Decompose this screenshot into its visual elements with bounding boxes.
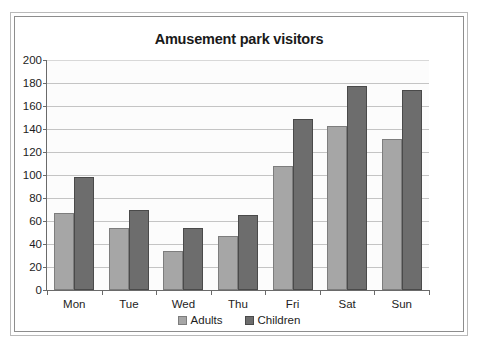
y-axis-tick-label: 20 [29, 261, 42, 273]
y-axis-tick-mark [43, 83, 47, 84]
bar-wed-children [183, 228, 203, 290]
x-axis-tick-mark [320, 290, 321, 295]
gridline [47, 129, 429, 130]
x-axis-tick-label: Tue [119, 298, 138, 310]
bar-wed-adults [163, 251, 183, 290]
y-axis-tick-mark [43, 175, 47, 176]
bar-thu-adults [218, 236, 238, 290]
gridline [47, 175, 429, 176]
x-axis-tick-label: Wed [172, 298, 195, 310]
chart-outer-frame: Amusement park visitors 0204060801001201… [10, 12, 468, 336]
legend-label: Children [258, 314, 301, 326]
x-axis-line [46, 290, 429, 291]
bar-mon-children [74, 177, 94, 290]
x-axis-tick-mark [374, 290, 375, 295]
y-axis-tick-mark [43, 198, 47, 199]
legend-swatch-icon [245, 316, 254, 325]
y-axis-tick-label: 40 [29, 238, 42, 250]
x-axis-tick-mark [211, 290, 212, 295]
bar-sun-adults [382, 139, 402, 290]
bar-tue-adults [109, 228, 129, 290]
x-axis-tick-mark [265, 290, 266, 295]
bar-sun-children [402, 90, 422, 290]
chart-title: Amusement park visitors [15, 31, 463, 47]
y-axis-tick-label: 120 [23, 146, 42, 158]
y-axis-tick-label: 160 [23, 100, 42, 112]
gridline [47, 106, 429, 107]
gridline [47, 83, 429, 84]
x-axis-tick-label: Sun [391, 298, 411, 310]
gridline [47, 152, 429, 153]
y-axis-tick-label: 180 [23, 77, 42, 89]
y-axis-tick-mark [43, 244, 47, 245]
bar-tue-children [129, 210, 149, 291]
x-axis-tick-mark [47, 290, 48, 295]
legend-swatch-icon [178, 316, 187, 325]
y-axis-tick-label: 0 [36, 284, 42, 296]
y-axis-tick-mark [43, 106, 47, 107]
bar-mon-adults [54, 213, 74, 290]
chart-inner-frame: Amusement park visitors 0204060801001201… [14, 16, 464, 332]
y-axis-tick-mark [43, 267, 47, 268]
y-axis-tick-label: 60 [29, 215, 42, 227]
bar-sat-children [347, 86, 367, 290]
legend-label: Adults [191, 314, 223, 326]
y-axis-tick-mark [43, 221, 47, 222]
x-axis-tick-label: Fri [286, 298, 299, 310]
bar-fri-adults [273, 166, 293, 290]
x-axis-tick-label: Mon [63, 298, 85, 310]
plot-area-wrapper: 020406080100120140160180200 MonTueWedThu… [47, 60, 429, 293]
x-axis-tick-mark [102, 290, 103, 295]
y-axis-tick-mark [43, 60, 47, 61]
bar-fri-children [293, 119, 313, 290]
y-axis-tick-label: 80 [29, 192, 42, 204]
x-axis-tick-mark [429, 290, 430, 295]
bar-sat-adults [327, 126, 347, 290]
y-axis-tick-label: 200 [23, 54, 42, 66]
x-axis-tick-label: Thu [228, 298, 248, 310]
y-axis-tick-label: 100 [23, 169, 42, 181]
y-axis-tick-mark [43, 129, 47, 130]
gridline [47, 60, 429, 61]
y-axis-tick-mark [43, 152, 47, 153]
y-axis-tick-label: 140 [23, 123, 42, 135]
legend-item-children[interactable]: Children [245, 314, 301, 326]
chart-legend: AdultsChildren [15, 314, 463, 326]
legend-item-adults[interactable]: Adults [178, 314, 223, 326]
bar-thu-children [238, 215, 258, 290]
gridline [47, 198, 429, 199]
x-axis-tick-label: Sat [339, 298, 356, 310]
x-axis-tick-mark [156, 290, 157, 295]
